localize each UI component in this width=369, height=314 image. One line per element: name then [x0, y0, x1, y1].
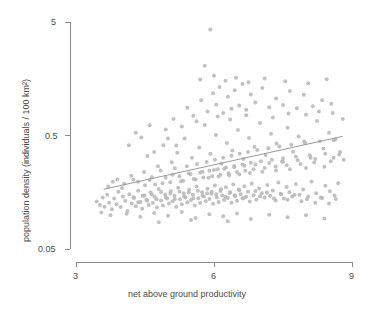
data-point	[309, 156, 313, 160]
data-point	[112, 197, 116, 201]
data-point	[193, 203, 197, 207]
data-point	[134, 131, 138, 135]
data-point	[253, 162, 257, 166]
data-point	[252, 193, 256, 197]
data-point	[293, 193, 297, 197]
data-point	[297, 135, 301, 139]
data-point	[130, 201, 134, 205]
data-point	[306, 195, 310, 199]
data-point	[238, 152, 242, 156]
data-point	[182, 195, 186, 199]
data-point	[296, 158, 300, 162]
x-axis-title: net above ground productivity	[128, 290, 246, 299]
data-point	[302, 139, 306, 143]
data-point	[211, 91, 215, 95]
data-point	[156, 164, 160, 168]
data-point	[323, 152, 327, 156]
plot-canvas	[0, 0, 369, 314]
data-point	[191, 193, 195, 197]
data-point	[291, 150, 295, 154]
data-point	[116, 190, 120, 194]
data-point	[233, 193, 237, 197]
data-point	[207, 169, 211, 173]
data-point	[242, 196, 246, 200]
data-point	[237, 188, 241, 192]
data-point	[114, 202, 118, 206]
data-point	[265, 183, 269, 187]
data-point	[198, 77, 202, 81]
data-point	[263, 166, 267, 170]
data-point	[228, 190, 232, 194]
data-point	[274, 165, 278, 169]
data-point	[196, 196, 200, 200]
data-point	[201, 194, 205, 198]
data-point	[249, 161, 253, 165]
data-point	[134, 204, 138, 208]
data-point	[313, 201, 317, 205]
data-point	[258, 194, 262, 198]
data-point	[214, 103, 218, 107]
data-point	[246, 190, 250, 194]
data-point	[150, 193, 154, 197]
data-point	[187, 171, 191, 175]
data-point	[244, 113, 248, 117]
data-point	[187, 191, 191, 195]
data-point	[214, 133, 218, 137]
data-point	[203, 123, 207, 127]
data-point	[107, 201, 111, 205]
data-point	[145, 199, 149, 203]
data-point	[302, 93, 306, 97]
data-point	[342, 158, 346, 162]
data-point	[221, 156, 225, 160]
data-point	[196, 189, 200, 193]
data-point	[320, 196, 324, 200]
data-point	[279, 192, 283, 196]
data-point	[178, 190, 182, 194]
data-point	[147, 203, 151, 207]
data-point	[288, 167, 292, 171]
data-point	[119, 205, 123, 209]
data-point	[201, 176, 205, 180]
data-point	[155, 206, 159, 210]
data-point	[98, 203, 102, 207]
data-point	[253, 101, 257, 105]
data-point	[252, 167, 256, 171]
data-point	[241, 82, 245, 86]
data-point	[286, 126, 290, 130]
data-point	[208, 152, 212, 156]
data-point	[285, 163, 289, 167]
data-point	[175, 151, 179, 155]
data-point	[242, 164, 246, 168]
y-tick-label-5: 5	[51, 18, 56, 27]
data-point	[295, 106, 299, 110]
data-point	[269, 132, 273, 136]
data-point	[283, 79, 287, 83]
data-point	[159, 190, 163, 194]
data-point	[164, 195, 168, 199]
data-point	[178, 174, 182, 178]
data-point	[168, 192, 172, 196]
data-point	[115, 177, 119, 181]
data-point	[229, 201, 233, 205]
data-point	[237, 104, 241, 108]
data-point	[194, 177, 198, 181]
data-point	[298, 162, 302, 166]
data-point	[301, 188, 305, 192]
data-point	[129, 174, 133, 178]
data-point	[95, 200, 99, 204]
data-point	[228, 118, 232, 122]
data-point	[173, 197, 177, 201]
data-point	[173, 166, 177, 170]
data-point	[281, 160, 285, 164]
data-point	[205, 160, 209, 164]
data-point	[304, 113, 308, 117]
data-point	[224, 79, 228, 83]
data-point	[157, 220, 161, 224]
data-point	[299, 199, 303, 203]
data-point	[164, 127, 168, 131]
data-point	[327, 131, 331, 135]
data-point	[159, 168, 163, 172]
data-point	[224, 195, 228, 199]
data-point	[235, 199, 239, 203]
data-point	[206, 176, 210, 180]
